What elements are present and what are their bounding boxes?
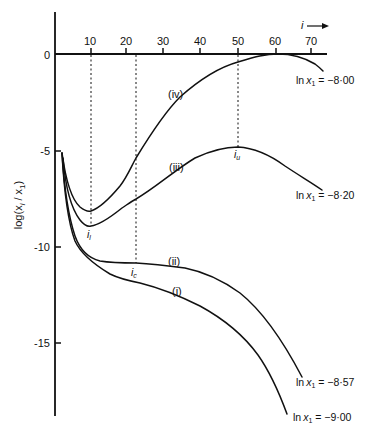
curve-label-i: (i) — [172, 285, 182, 297]
curve-label-iv: (iv) — [168, 88, 183, 100]
x-tick-labels: 10 20 30 40 50 60 70 — [84, 35, 317, 47]
annotation-ic: ic — [131, 266, 137, 279]
y-tick-label: -10 — [34, 241, 50, 253]
x-tick-label: 70 — [305, 35, 317, 47]
dashed-lines — [91, 55, 238, 263]
y-tick-labels: 0 -5 -10 -15 — [34, 49, 50, 349]
curve-iii — [63, 147, 322, 226]
curve-iv — [62, 54, 323, 211]
x-tick-label: 40 — [194, 35, 206, 47]
annotation-il: il — [87, 228, 91, 241]
x-tick-label: 10 — [84, 35, 96, 47]
curve-label-iii: (iii) — [169, 161, 184, 173]
curve-i — [62, 153, 287, 414]
axes — [55, 12, 327, 416]
y-tick-label: 0 — [44, 49, 50, 61]
x-tick-label: 30 — [157, 35, 169, 47]
arrow-head-icon — [322, 23, 329, 29]
y-tick-label: -15 — [34, 337, 50, 349]
end-label-i: lnx1 = −9·00 — [293, 411, 352, 424]
end-label-iii: lnx1 = −8·20 — [296, 189, 355, 202]
y-ticks — [55, 151, 61, 343]
x-tick-label: 50 — [232, 35, 244, 47]
curve-label-ii: (ii) — [168, 255, 180, 267]
end-labels: lnx1 = −8·00 lnx1 = −8·20 lnx1 = −8·57 l… — [293, 74, 355, 424]
curves — [62, 54, 323, 414]
x-axis-arrow: i — [301, 19, 329, 31]
end-label-ii: lnx1 = −8·57 — [296, 376, 355, 389]
annotation-iu: iu — [234, 148, 240, 161]
x-tick-label: 60 — [269, 35, 281, 47]
curve-labels: (iv) (iii) (ii) (i) — [168, 88, 184, 297]
y-tick-label: -5 — [40, 145, 50, 157]
curve-ii — [62, 153, 302, 377]
chart: 10 20 30 40 50 60 70 i 0 -5 -10 -15 log(… — [0, 0, 365, 433]
y-axis-label: log(xi / x1) — [12, 181, 27, 229]
x-tick-label: 20 — [120, 35, 132, 47]
end-label-iv: lnx1 = −8·00 — [296, 74, 355, 87]
annotation-labels: il ic iu — [87, 148, 240, 279]
x-axis-label: i — [301, 19, 304, 31]
